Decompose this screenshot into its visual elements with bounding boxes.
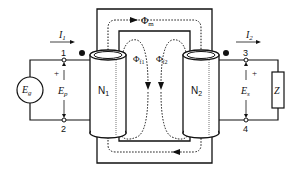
- label-terminal-3: 3: [243, 48, 248, 58]
- terminal-1: [62, 58, 66, 62]
- leakage-arrow-1: [145, 82, 151, 90]
- terminal-3: [244, 58, 248, 62]
- polarity-dot-primary: [79, 50, 85, 56]
- label-ep-plus: +: [54, 68, 59, 78]
- leakage-flux-paths: [121, 40, 188, 139]
- flux-arrow-bottom: [172, 149, 180, 155]
- terminal-2: [62, 118, 66, 122]
- label-phi-f1: Φf1: [133, 54, 145, 65]
- label-i1: I1: [58, 29, 66, 42]
- label-terminal-4: 4: [243, 124, 248, 134]
- terminal-4: [244, 118, 248, 122]
- transformer-diagram: I1 I2 1 2 3 4 Eg + Ep + Es Z N1 N2 Φm Φf…: [0, 0, 299, 172]
- label-z: Z: [274, 85, 280, 96]
- label-i2: I2: [245, 29, 253, 42]
- label-terminal-2: 2: [61, 124, 66, 134]
- label-terminal-1: 1: [61, 48, 66, 58]
- leakage-arrow-2: [158, 82, 164, 90]
- polarity-dot-secondary: [223, 50, 229, 56]
- flux-arrow-top: [130, 17, 138, 23]
- label-es-plus: +: [252, 68, 257, 78]
- label-phi-m: Φm: [141, 15, 154, 28]
- label-ep: Ep: [57, 85, 68, 98]
- label-phi-f2: Φf2: [156, 54, 168, 65]
- label-es: Es: [240, 85, 250, 98]
